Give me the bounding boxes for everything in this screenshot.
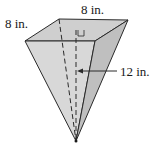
pyramid-diagram: 8 in. 8 in. 12 in. — [0, 0, 160, 148]
label-height: 12 in. — [120, 65, 150, 78]
label-base-left: 8 in. — [5, 17, 28, 30]
front-face — [25, 41, 95, 141]
apex-point — [75, 140, 78, 143]
label-base-top: 8 in. — [81, 3, 104, 16]
